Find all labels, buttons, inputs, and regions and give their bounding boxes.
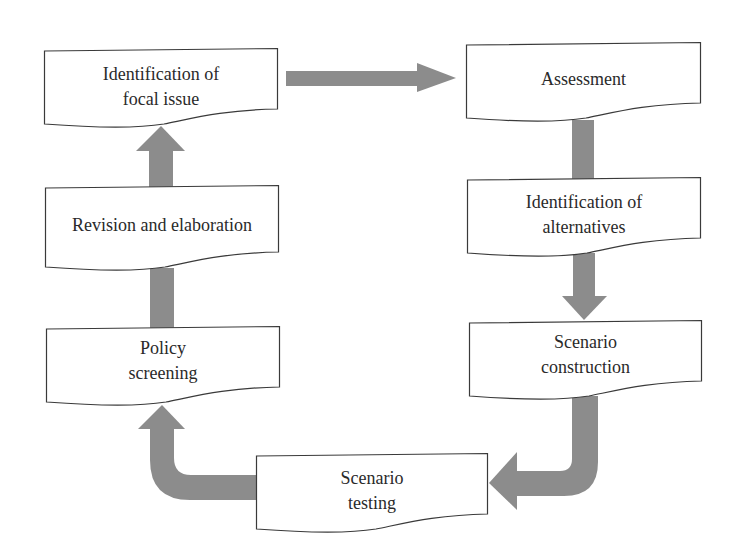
node-policy-screening: Policy screening <box>46 326 280 406</box>
node-assessment: Assessment <box>466 42 701 122</box>
diagram-canvas: Identification of focal issue Assessment… <box>0 0 740 555</box>
arrow-connector-icon <box>572 120 594 180</box>
arrow-right-icon <box>286 63 456 92</box>
node-label-line2: focal issue <box>44 87 278 112</box>
arrow-curve-up-left-icon <box>138 405 256 500</box>
node-label-line2: construction <box>469 355 702 380</box>
node-label-line1: Assessment <box>466 67 701 92</box>
node-label-line1: Identification of <box>467 190 701 215</box>
node-label-line1: Scenario <box>256 466 488 491</box>
node-revision-elaboration: Revision and elaboration <box>45 185 279 271</box>
node-focal-issue: Identification of focal issue <box>44 48 278 128</box>
node-label-line2: testing <box>256 491 488 516</box>
node-label-line1: Identification of <box>44 62 278 87</box>
arrow-curve-down-left-icon <box>489 396 598 510</box>
arrow-connector-icon <box>150 268 174 328</box>
node-label-line2: screening <box>46 361 280 386</box>
node-label-line1: Policy <box>46 336 280 361</box>
node-label-line1: Revision and elaboration <box>45 213 279 238</box>
node-alternatives: Identification of alternatives <box>467 177 701 257</box>
node-scenario-construction: Scenario construction <box>469 320 702 400</box>
node-label-line1: Scenario <box>469 330 702 355</box>
node-scenario-testing: Scenario testing <box>256 453 488 533</box>
arrow-down-icon <box>562 253 607 320</box>
node-label-line2: alternatives <box>467 215 701 240</box>
arrow-up-icon <box>136 126 185 187</box>
